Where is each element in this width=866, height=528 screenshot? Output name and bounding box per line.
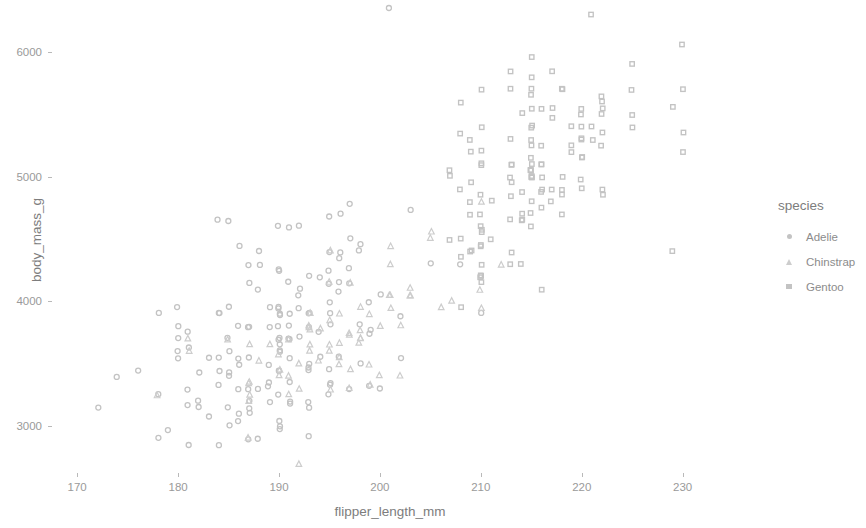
data-point [338,211,343,216]
data-point [529,138,533,142]
data-point [509,250,513,254]
data-point [600,130,604,134]
data-point [298,286,303,291]
data-point [458,187,462,191]
y-tick-label: 3000 [0,420,42,432]
x-tick-label: 180 [168,481,187,493]
data-point [479,280,483,284]
data-point [237,362,242,367]
data-point [508,87,512,91]
data-point [399,356,404,361]
data-point [569,124,573,128]
data-point [529,224,533,228]
data-point [185,403,190,408]
data-point [388,243,394,249]
data-point [681,87,685,91]
data-point [478,193,482,197]
data-point [468,200,472,204]
data-point [287,311,292,316]
data-point [459,255,463,259]
data-point [580,186,584,190]
data-point [338,250,343,255]
data-point [277,367,283,373]
y-tick-mark [48,301,52,302]
data-point [307,348,313,354]
data-point [498,262,504,268]
data-point [326,268,331,273]
data-point [530,162,534,166]
data-point [448,174,452,178]
legend-item-adelie[interactable]: Adelie [778,224,866,249]
square-marker-icon [786,284,792,290]
y-axis-label: body_mass_g [29,198,44,282]
data-point [286,373,292,379]
data-point [529,143,533,147]
data-point [560,175,564,179]
data-point [388,305,394,311]
data-point [175,349,180,354]
data-point [307,405,312,410]
legend-key [778,234,800,239]
data-point [630,62,634,66]
data-point [519,262,523,266]
x-tick-mark [582,473,583,477]
data-point [681,130,685,134]
data-point [326,348,332,354]
data-point [255,287,260,292]
data-point [306,400,311,405]
data-point [601,106,605,110]
data-point [358,304,364,310]
legend-key [778,259,800,265]
data-point [247,392,253,398]
data-point [366,362,372,368]
data-point [156,310,161,315]
data-point [508,137,512,141]
data-point [560,188,564,192]
data-point [560,212,564,216]
data-point [226,304,231,309]
data-point [508,262,512,266]
data-point [387,261,393,267]
legend-item-gentoo[interactable]: Gentoo [778,274,866,299]
data-point [287,380,292,385]
data-point [247,280,252,285]
data-point [357,322,362,327]
data-point [267,400,272,405]
data-point [327,367,332,372]
data-point [286,391,292,397]
data-point [307,273,312,278]
y-tick-mark [48,52,52,53]
data-point [165,428,170,433]
triangle-marker-icon [786,259,792,265]
data-point [428,235,434,241]
data-point [257,262,262,267]
data-point [589,124,593,128]
data-point [539,107,543,111]
data-point [296,461,302,467]
data-point [337,280,342,285]
legend-label: Gentoo [806,281,844,293]
data-point [580,155,584,159]
data-point [469,149,473,153]
data-point [479,87,483,91]
data-point [327,214,332,219]
data-point [479,199,485,205]
data-point [96,405,101,410]
legend-items: AdelieChinstrapGentoo [778,224,866,299]
legend-label: Adelie [806,231,838,243]
x-tick-mark [77,473,78,477]
data-point [267,341,273,347]
data-point [407,285,413,291]
data-point [357,327,363,333]
data-point [296,386,302,392]
data-point [540,175,544,179]
series-adelie [96,6,484,448]
data-point [185,387,190,392]
data-point [479,305,485,311]
circle-marker-icon [787,234,792,239]
data-point [216,443,221,448]
legend-item-chinstrap[interactable]: Chinstrap [778,249,866,274]
series-gentoo [447,12,685,309]
x-tick-mark [683,473,684,477]
data-point [316,357,322,363]
